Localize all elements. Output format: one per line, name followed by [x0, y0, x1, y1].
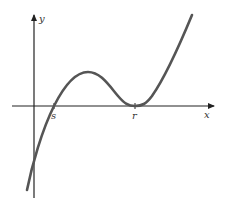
s-label: s	[51, 110, 56, 121]
x-axis-label: x	[204, 109, 210, 120]
y-axis-label: y	[38, 13, 45, 24]
function-curve	[27, 15, 192, 190]
function-graph: y x s r	[0, 0, 226, 204]
r-label: r	[132, 110, 138, 121]
